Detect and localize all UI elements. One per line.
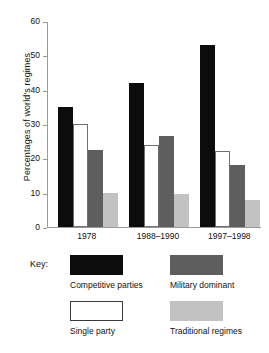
x-axis-tick-labels: 19781988–19901997–1998 bbox=[47, 231, 261, 245]
bar bbox=[58, 107, 73, 227]
bar-group bbox=[58, 22, 118, 227]
y-axis-tick: 50 bbox=[43, 56, 47, 57]
y-axis-tick: 40 bbox=[43, 91, 47, 92]
legend-swatch-single-party bbox=[70, 301, 123, 321]
legend-swatch-competitive-parties bbox=[70, 255, 123, 275]
y-axis-tick: 60 bbox=[43, 22, 47, 23]
bar-group bbox=[129, 22, 189, 227]
bar bbox=[215, 151, 230, 227]
y-axis-tick-label: 30 bbox=[16, 119, 40, 130]
bar bbox=[73, 124, 88, 227]
chart-legend: Key: Competitive parties Military domina… bbox=[0, 255, 269, 353]
y-axis-tick-label: 10 bbox=[16, 188, 40, 199]
y-axis-tick: 20 bbox=[43, 159, 47, 160]
legend-item-single-party: Single party bbox=[70, 301, 166, 337]
legend-label-single-party: Single party bbox=[70, 326, 166, 337]
legend-item-traditional-regimes: Traditional regimes bbox=[170, 301, 266, 337]
x-axis-line bbox=[47, 227, 261, 228]
bar bbox=[129, 83, 144, 227]
legend-label-competitive-parties: Competitive parties bbox=[70, 280, 166, 291]
y-axis-tick: 10 bbox=[43, 194, 47, 195]
bar-group bbox=[200, 22, 260, 227]
bar-series-container bbox=[48, 22, 261, 227]
x-axis-tick-label: 1978 bbox=[47, 231, 127, 241]
x-axis-tick-label: 1988–1990 bbox=[118, 231, 198, 241]
legend-swatch-military-dominant bbox=[170, 255, 223, 275]
bar bbox=[230, 165, 245, 227]
bar bbox=[200, 45, 215, 227]
bar-chart-figure: Percentages of world's regimes 605040302… bbox=[0, 0, 269, 353]
bar bbox=[245, 200, 260, 227]
y-axis-tick-label: 60 bbox=[16, 16, 40, 27]
bar bbox=[159, 136, 174, 227]
legend-swatch-traditional-regimes bbox=[170, 301, 223, 321]
y-axis-tick: 0 bbox=[43, 228, 47, 229]
bar bbox=[88, 150, 103, 227]
bar bbox=[103, 193, 118, 227]
legend-label-military-dominant: Military dominant bbox=[170, 280, 266, 291]
y-axis-tick-label: 40 bbox=[16, 85, 40, 96]
y-axis-tick-label: 50 bbox=[16, 50, 40, 61]
plot-area: 6050403020100 bbox=[47, 22, 261, 228]
bar bbox=[144, 145, 159, 227]
legend-item-competitive-parties: Competitive parties bbox=[70, 255, 166, 291]
x-axis-tick-label: 1997–1998 bbox=[189, 231, 269, 241]
legend-item-military-dominant: Military dominant bbox=[170, 255, 266, 291]
legend-key-label: Key: bbox=[30, 259, 48, 269]
legend-label-traditional-regimes: Traditional regimes bbox=[170, 326, 266, 337]
bar bbox=[174, 194, 189, 227]
y-axis-tick-label: 0 bbox=[16, 222, 40, 233]
y-axis-tick: 30 bbox=[43, 125, 47, 126]
y-axis-tick-label: 20 bbox=[16, 153, 40, 164]
